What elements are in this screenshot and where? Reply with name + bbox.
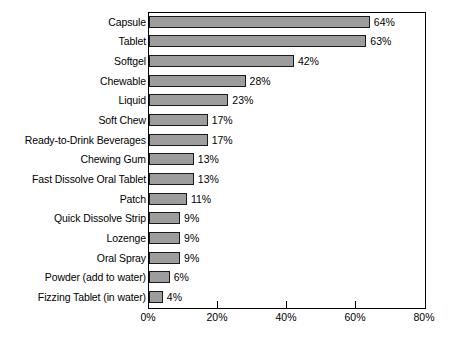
category-label: Powder (add to water): [0, 271, 146, 283]
bar-row: Oral Spray9%: [0, 248, 451, 268]
bar-value-label: 9%: [184, 252, 199, 264]
bar-and-value: 11%: [149, 193, 211, 205]
bar: [149, 193, 187, 205]
category-label: Fizzing Tablet (in water): [0, 291, 146, 303]
bar-row: Liquid23%: [0, 91, 451, 111]
bar: [149, 75, 246, 87]
bar-row: Capsule64%: [0, 12, 451, 32]
bar-row: Fast Dissolve Oral Tablet13%: [0, 169, 451, 189]
category-label: Capsule: [0, 16, 146, 28]
bar: [149, 291, 163, 303]
bar-row: Quick Dissolve Strip9%: [0, 209, 451, 229]
category-label: Patch: [0, 193, 146, 205]
x-tick-label: 80%: [413, 311, 434, 323]
bar-and-value: 42%: [149, 55, 319, 67]
bar-and-value: 28%: [149, 75, 271, 87]
bar: [149, 35, 366, 47]
category-label: Fast Dissolve Oral Tablet: [0, 173, 146, 185]
category-label: Quick Dissolve Strip: [0, 212, 146, 224]
category-label: Tablet: [0, 35, 146, 47]
bar-row: Chewing Gum13%: [0, 150, 451, 170]
category-label: Ready-to-Drink Beverages: [0, 134, 146, 146]
bar-and-value: 9%: [149, 252, 199, 264]
bar-row: Softgel42%: [0, 51, 451, 71]
category-label: Liquid: [0, 94, 146, 106]
category-label: Lozenge: [0, 232, 146, 244]
bar: [149, 16, 370, 28]
bar-and-value: 4%: [149, 291, 182, 303]
bar-value-label: 42%: [298, 55, 319, 67]
bar-and-value: 23%: [149, 94, 253, 106]
bar-value-label: 17%: [212, 134, 233, 146]
bar-value-label: 28%: [250, 75, 271, 87]
category-label: Chewing Gum: [0, 153, 146, 165]
category-label: Oral Spray: [0, 252, 146, 264]
bar-and-value: 17%: [149, 134, 233, 146]
x-tick-label: 0%: [140, 311, 155, 323]
bar-value-label: 64%: [374, 16, 395, 28]
bar-row: Patch11%: [0, 189, 451, 209]
bar-value-label: 23%: [232, 94, 253, 106]
bar: [149, 153, 194, 165]
bar: [149, 55, 294, 67]
bar-value-label: 9%: [184, 212, 199, 224]
bar-row: Soft Chew17%: [0, 110, 451, 130]
bar-and-value: 13%: [149, 173, 219, 185]
bar: [149, 212, 180, 224]
bar-chart: Capsule64%Tablet63%Softgel42%Chewable28%…: [0, 0, 451, 349]
bar-and-value: 9%: [149, 232, 199, 244]
bar-and-value: 17%: [149, 114, 233, 126]
bar: [149, 252, 180, 264]
bar-value-label: 6%: [174, 271, 189, 283]
bar-row: Lozenge9%: [0, 228, 451, 248]
category-label: Soft Chew: [0, 114, 146, 126]
bar: [149, 173, 194, 185]
bar-and-value: 9%: [149, 212, 199, 224]
bar: [149, 134, 208, 146]
bar-value-label: 13%: [198, 173, 219, 185]
category-label: Chewable: [0, 75, 146, 87]
bar-and-value: 63%: [149, 35, 391, 47]
x-tick-label: 60%: [344, 311, 365, 323]
bar-value-label: 9%: [184, 232, 199, 244]
bar-value-label: 17%: [212, 114, 233, 126]
bar-value-label: 63%: [370, 35, 391, 47]
bar: [149, 271, 170, 283]
bar: [149, 114, 208, 126]
bar-rows-container: Capsule64%Tablet63%Softgel42%Chewable28%…: [0, 12, 451, 307]
bar-row: Chewable28%: [0, 71, 451, 91]
bar: [149, 232, 180, 244]
bar-row: Tablet63%: [0, 32, 451, 52]
bar-and-value: 6%: [149, 271, 189, 283]
bar-row: Powder (add to water)6%: [0, 268, 451, 288]
x-tick-label: 20%: [206, 311, 227, 323]
bar-value-label: 11%: [191, 193, 211, 205]
bar-and-value: 13%: [149, 153, 219, 165]
x-tick-label: 40%: [275, 311, 296, 323]
bar-value-label: 4%: [167, 291, 182, 303]
bar: [149, 94, 228, 106]
bar-value-label: 13%: [198, 153, 219, 165]
bar-and-value: 64%: [149, 16, 395, 28]
bar-row: Fizzing Tablet (in water)4%: [0, 287, 451, 307]
bar-row: Ready-to-Drink Beverages17%: [0, 130, 451, 150]
category-label: Softgel: [0, 55, 146, 67]
